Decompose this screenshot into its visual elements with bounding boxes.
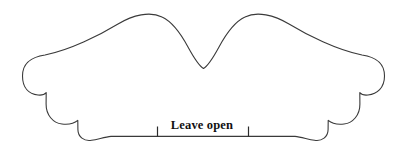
pattern-outline-drawing (0, 0, 404, 168)
pattern-figure-canvas: Leave open (0, 0, 404, 168)
leave-open-label: Leave open (0, 118, 404, 132)
